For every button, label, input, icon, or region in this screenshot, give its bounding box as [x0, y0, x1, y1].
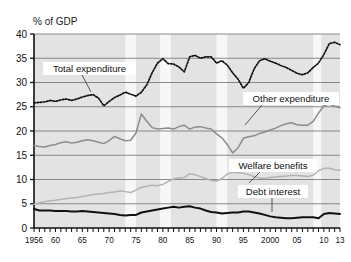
x-axis-tick-label: 10: [319, 236, 329, 245]
y-axis-tick-label: 10: [16, 174, 28, 185]
total-expenditure-label: Total expenditure: [53, 63, 126, 74]
x-axis-tick-label: 95: [239, 236, 249, 245]
welfare-benefits-label: Welfare benefits: [238, 160, 307, 171]
debt-interest-label: Debt interest: [246, 186, 301, 197]
y-axis-tick-label: 30: [16, 77, 28, 88]
x-axis-tick-label: 75: [131, 236, 141, 245]
x-axis-tick-label: 80: [158, 236, 168, 245]
x-axis-tick-label: 1956: [25, 236, 44, 245]
chart-container: % of GDP 0510152025303540195660657075808…: [0, 0, 351, 262]
line-chart-plot: 0510152025303540195660657075808590952000…: [0, 0, 351, 262]
y-axis-tick-label: 5: [21, 198, 27, 209]
x-axis-tick-label: 60: [51, 236, 61, 245]
other-expenditure-label: Other expenditure: [253, 93, 330, 104]
y-axis-tick-label: 15: [16, 150, 28, 161]
x-axis-tick-label: 70: [105, 236, 115, 245]
y-axis-tick-label: 20: [16, 126, 28, 137]
y-axis-tick-label: 35: [16, 53, 28, 64]
y-axis-tick-label: 25: [16, 101, 28, 112]
x-axis-tick-label: 13: [335, 236, 345, 245]
y-axis-tick-label: 0: [21, 223, 27, 234]
x-axis-tick-label: 2000: [261, 236, 280, 245]
x-axis-tick-label: 05: [292, 236, 302, 245]
y-axis-tick-label: 40: [16, 29, 28, 40]
x-axis-tick-label: 65: [78, 236, 88, 245]
x-axis-tick-label: 90: [212, 236, 222, 245]
x-axis-tick-label: 85: [185, 236, 195, 245]
